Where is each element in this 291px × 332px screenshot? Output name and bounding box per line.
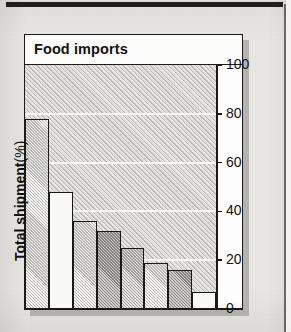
- y-tick-20: [216, 259, 222, 261]
- y-axis-title-unit: (%): [12, 141, 28, 163]
- y-tick-60: [216, 162, 222, 164]
- x-axis-baseline: [25, 308, 242, 310]
- top-printed-rule: [6, 2, 283, 7]
- y-tick-label-80: 80: [226, 105, 242, 121]
- y-tick-label-20: 20: [226, 251, 242, 267]
- scanned-chart-figure: Food imports AustriaWest GermanyItalyUKN…: [0, 0, 291, 332]
- y-tick-0: [216, 308, 222, 310]
- chart-frame: Food imports AustriaWest GermanyItalyUKN…: [24, 34, 243, 310]
- y-tick-label-100: 100: [226, 56, 249, 72]
- y-tick-100: [216, 64, 222, 66]
- y-axis-title: Total shipment(%): [13, 141, 203, 261]
- y-axis-line: [216, 65, 218, 309]
- chart-title-strip: Food imports: [25, 35, 242, 65]
- y-tick-80: [216, 113, 222, 115]
- y-tick-label-0: 0: [226, 300, 234, 316]
- bar-france: [192, 292, 216, 309]
- page-edge-highlight: [286, 0, 291, 332]
- y-axis-title-text: Total shipment: [12, 162, 28, 261]
- y-tick-40: [216, 211, 222, 213]
- right-printed-rule: [284, 4, 286, 332]
- y-tick-label-60: 60: [226, 154, 242, 170]
- chart-title: Food imports: [34, 41, 128, 57]
- y-tick-label-40: 40: [226, 202, 242, 218]
